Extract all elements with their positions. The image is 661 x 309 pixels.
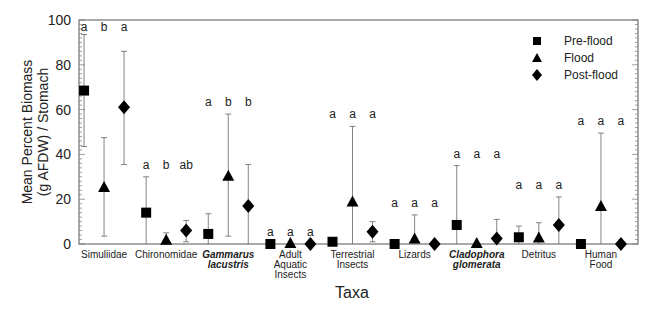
significance-letter: a (578, 114, 585, 128)
significance-letter: b (245, 95, 252, 109)
significance-letter: a (473, 147, 480, 161)
x-category-label: Detritus (522, 249, 556, 260)
significance-letter: b (225, 95, 232, 109)
significance-letter: a (143, 158, 150, 172)
marker-square (79, 86, 89, 96)
marker-square (265, 239, 275, 249)
x-category-label: Chironomidae (135, 249, 198, 260)
significance-letter: a (349, 107, 356, 121)
x-category-label: TerrestrialInsects (331, 249, 375, 270)
legend-triangle-icon (532, 53, 542, 62)
marker-triangle (409, 233, 421, 244)
significance-letter: b (101, 20, 108, 34)
x-category-label: Lizards (398, 249, 430, 260)
marker-triangle (222, 170, 234, 181)
marker-diamond (367, 225, 379, 239)
marker-square (576, 239, 586, 249)
significance-letter: a (121, 20, 128, 34)
significance-letter: a (535, 178, 542, 192)
plot-frame (79, 20, 638, 244)
y-tick-label: 20 (55, 191, 71, 207)
marker-diamond (180, 224, 192, 238)
marker-triangle (160, 234, 172, 245)
significance-letter: a (267, 225, 274, 239)
marker-diamond (242, 199, 254, 213)
marker-triangle (98, 181, 110, 192)
significance-letter: a (391, 196, 398, 210)
x-category-label: Gammaruslacustris (202, 249, 255, 270)
marker-triangle (533, 231, 545, 242)
legend-label: Pre-flood (564, 34, 613, 48)
marker-diamond (304, 237, 316, 251)
significance-letter: a (431, 196, 438, 210)
chart: 020406080100Mean Percent Biomass(g AFDW)… (0, 0, 661, 309)
legend-label: Flood (564, 51, 594, 65)
x-category-label: Simuliidae (81, 249, 128, 260)
y-tick-label: 80 (55, 57, 71, 73)
marker-square (452, 220, 462, 230)
x-category-label: HumanFood (585, 249, 617, 270)
marker-diamond (118, 100, 130, 114)
marker-triangle (595, 200, 607, 211)
significance-letter: ab (179, 158, 193, 172)
significance-letter: a (411, 196, 418, 210)
marker-triangle (347, 196, 359, 207)
significance-letter: a (287, 225, 294, 239)
y-tick-label: 40 (55, 146, 71, 162)
significance-letter: a (205, 95, 212, 109)
legend-diamond-icon (532, 69, 542, 81)
marker-square (328, 237, 338, 247)
significance-letter: a (307, 225, 314, 239)
y-tick-label: 100 (48, 12, 72, 28)
significance-letter: a (515, 178, 522, 192)
marker-square (514, 232, 524, 242)
marker-square (141, 208, 151, 218)
significance-letter: b (163, 158, 170, 172)
significance-letter: a (618, 114, 625, 128)
significance-letter: a (598, 114, 605, 128)
significance-letter: a (329, 107, 336, 121)
significance-letter: a (555, 178, 562, 192)
marker-square (203, 229, 213, 239)
y-axis-label: Mean Percent Biomass(g AFDW) / Stomach (19, 60, 51, 205)
y-tick-label: 60 (55, 102, 71, 118)
legend-label: Post-flood (564, 68, 618, 82)
marker-square (390, 239, 400, 249)
x-category-label: AdultAquaticInsects (274, 249, 307, 280)
significance-letter: a (81, 20, 88, 34)
significance-letter: a (493, 147, 500, 161)
y-tick-label: 0 (63, 236, 71, 252)
legend-square-icon (533, 37, 541, 45)
x-axis-label: Taxa (335, 284, 369, 301)
marker-diamond (553, 218, 565, 232)
significance-letter: a (453, 147, 460, 161)
x-category-label: Cladophoraglomerata (449, 249, 505, 270)
marker-diamond (491, 231, 503, 245)
significance-letter: a (369, 107, 376, 121)
marker-triangle (471, 237, 483, 248)
